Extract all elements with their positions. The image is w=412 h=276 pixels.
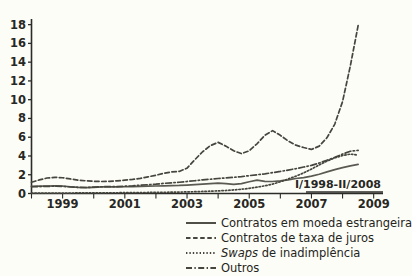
y-tick-label: 16 bbox=[10, 36, 26, 50]
legend-line-swatch bbox=[186, 247, 216, 259]
x-tick-label: 1999 bbox=[47, 197, 79, 211]
y-tick-label: 6 bbox=[18, 130, 26, 144]
legend-item-1[interactable]: Contratos de taxa de juros bbox=[186, 231, 395, 245]
series-lines bbox=[32, 26, 359, 193]
chart-legend: Contratos em moeda estrangeiraContratos … bbox=[186, 216, 395, 276]
y-tick-label: 10 bbox=[10, 93, 26, 107]
range-annotation: I/1998-II/2008 bbox=[295, 178, 381, 191]
series-line-1 bbox=[32, 26, 359, 183]
legend-item-label: Contratos em moeda estrangeira bbox=[221, 217, 412, 230]
y-tick-label: 12 bbox=[10, 74, 26, 88]
legend-line-swatch bbox=[186, 262, 216, 274]
y-tick-label: 18 bbox=[10, 18, 26, 32]
legend-item-label: Outros bbox=[221, 262, 259, 275]
y-tick-label: 4 bbox=[18, 149, 26, 163]
x-tick-label: 2005 bbox=[233, 197, 265, 211]
y-tick-label: 8 bbox=[18, 111, 26, 125]
legend-item-label: Contratos de taxa de juros bbox=[221, 232, 374, 245]
legend-item-label: Swaps de inadimplência bbox=[221, 247, 360, 260]
x-tick-label: 2003 bbox=[171, 197, 203, 211]
x-tick-label: 2009 bbox=[358, 197, 390, 211]
y-tick-label: 2 bbox=[18, 168, 26, 182]
y-axis-tick-labels: 024681012141618 bbox=[10, 18, 26, 201]
legend-item-3[interactable]: Outros bbox=[186, 261, 395, 275]
x-tick-label: 2001 bbox=[109, 197, 141, 211]
y-tick-label: 14 bbox=[10, 55, 26, 69]
y-tick-label: 0 bbox=[18, 187, 26, 201]
legend-item-0[interactable]: Contratos em moeda estrangeira bbox=[186, 216, 395, 230]
legend-line-swatch bbox=[186, 232, 216, 244]
x-axis-tick-labels: 199920012003200520072009 bbox=[47, 197, 390, 211]
legend-item-2[interactable]: Swaps de inadimplência bbox=[186, 246, 395, 260]
x-tick-label: 2007 bbox=[295, 197, 327, 211]
legend-line-swatch bbox=[186, 217, 216, 229]
